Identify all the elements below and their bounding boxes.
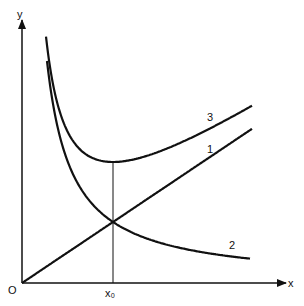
series-curve-2 bbox=[47, 61, 250, 259]
series-curve-3 bbox=[46, 37, 252, 162]
x0-label: x₀ bbox=[105, 287, 115, 299]
origin-label: O bbox=[8, 284, 17, 296]
series-label-2: 2 bbox=[229, 239, 235, 251]
y-axis-label: y bbox=[17, 8, 23, 20]
series-label-1: 1 bbox=[207, 143, 213, 155]
x-axis-label: x bbox=[288, 277, 294, 289]
diagram: y x O x₀ 3 1 2 bbox=[0, 0, 304, 306]
series-label-3: 3 bbox=[207, 111, 213, 123]
series-line-1 bbox=[22, 129, 252, 283]
